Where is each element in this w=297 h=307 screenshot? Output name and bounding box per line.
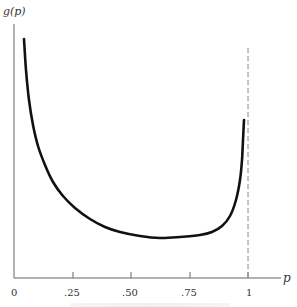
density-curve bbox=[24, 39, 244, 238]
tick-label-1: 1 bbox=[246, 287, 252, 298]
x-axis-label: p bbox=[283, 271, 291, 285]
tick-label-050: .50 bbox=[122, 287, 138, 298]
tick-label-0: 0 bbox=[11, 287, 17, 298]
x-ticks bbox=[73, 272, 248, 278]
figure-caption bbox=[70, 303, 230, 307]
chart: g(p) p 0 .25 .50 .75 1 bbox=[0, 0, 297, 307]
y-axis-label: g(p) bbox=[3, 5, 26, 18]
tick-label-025: .25 bbox=[64, 287, 80, 298]
tick-label-075: .75 bbox=[181, 287, 197, 298]
